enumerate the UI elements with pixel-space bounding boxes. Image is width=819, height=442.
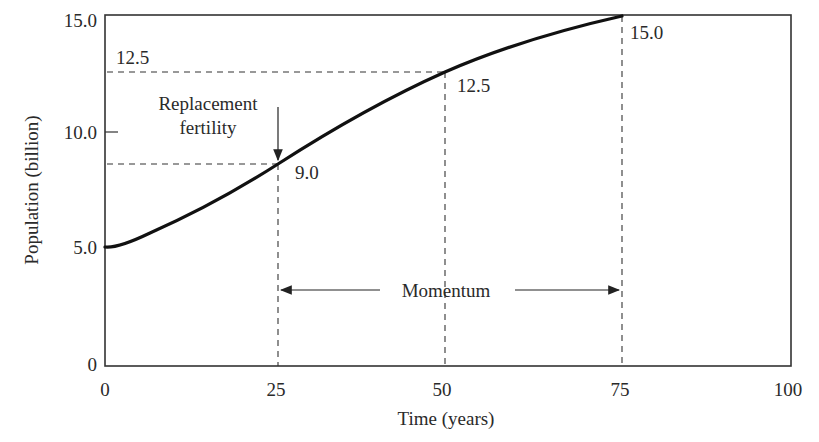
point-label-50: 12.5 bbox=[457, 75, 490, 96]
momentum-label: Momentum bbox=[402, 280, 491, 301]
ref-label-12-5-left: 12.5 bbox=[116, 47, 149, 68]
x-tick-label-50: 50 bbox=[433, 379, 452, 400]
y-tick-label-10: 10.0 bbox=[64, 122, 97, 143]
point-label-75: 15.0 bbox=[630, 22, 663, 43]
x-tick-label-0: 0 bbox=[100, 379, 110, 400]
y-tick-label-5: 5.0 bbox=[73, 237, 97, 258]
population-momentum-chart: 15.0 10.0 5.0 0 0 25 50 75 100 Time (yea… bbox=[0, 0, 819, 442]
x-tick-label-100: 100 bbox=[774, 379, 803, 400]
replacement-label-line1: Replacement bbox=[158, 93, 258, 114]
x-tick-label-75: 75 bbox=[611, 379, 630, 400]
y-tick-label-15: 15.0 bbox=[64, 10, 97, 31]
x-tick-label-25: 25 bbox=[267, 379, 286, 400]
point-label-25: 9.0 bbox=[295, 162, 319, 183]
plot-frame bbox=[105, 15, 791, 366]
y-axis-title: Population (billion) bbox=[21, 115, 43, 264]
y-tick-label-0: 0 bbox=[88, 354, 98, 375]
replacement-label-line2: fertility bbox=[180, 117, 237, 138]
x-axis-title: Time (years) bbox=[398, 408, 495, 430]
